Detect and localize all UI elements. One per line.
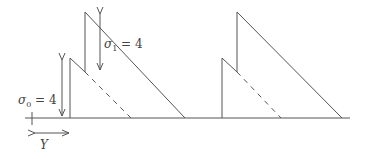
sawtooth-diagram: σ0 = 4 σ1 = 4 Y (0, 0, 370, 159)
left-sawtooth-group (70, 12, 185, 118)
sigma1-label: σ1 = 4 (104, 37, 143, 53)
y-label: Y (40, 138, 49, 152)
sigma0-label: σ0 = 4 (18, 93, 57, 109)
right-sawtooth-group (222, 12, 342, 118)
